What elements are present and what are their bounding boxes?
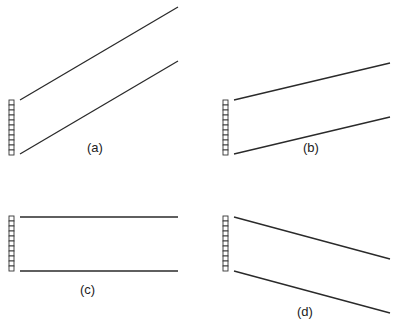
panel-b-label: (b): [303, 140, 319, 155]
upper-beam-line: [20, 7, 178, 100]
panel-c-label: (c): [80, 282, 95, 297]
sensor-array-icon: [223, 100, 228, 155]
panel-a-label: (a): [87, 140, 103, 155]
panel-d: [223, 216, 390, 313]
upper-beam-line: [234, 217, 390, 259]
panel-d-label: (d): [297, 304, 313, 319]
sensor-array-icon: [9, 216, 14, 271]
sensor-array-icon: [223, 216, 228, 271]
diagram-canvas: [0, 0, 397, 332]
upper-beam-line: [234, 63, 390, 100]
panel-a: [9, 7, 178, 155]
sensor-array-icon: [9, 100, 14, 155]
panel-c: [9, 216, 178, 271]
